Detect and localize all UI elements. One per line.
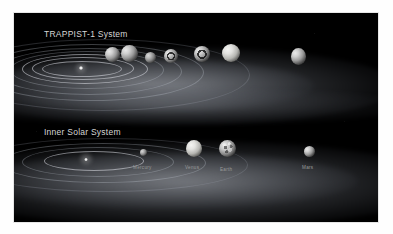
mercury-planet [140, 149, 147, 156]
earth-label: Earth [220, 167, 232, 172]
mars-label: Mars [302, 165, 313, 170]
trappist-planet-g [222, 44, 240, 62]
background-speck [56, 35, 57, 36]
trappist-planet-b [105, 47, 120, 62]
solar-system-title: Inner Solar System [44, 127, 121, 137]
background-speck [314, 33, 315, 34]
background-speck [36, 131, 37, 132]
trappist-planet-d [145, 52, 156, 63]
illustration-panel: TRAPPIST-1 System Mercury Venus [14, 13, 378, 222]
mars-planet [304, 146, 315, 157]
trappist-planet-e [164, 49, 178, 63]
system-divider-haze [14, 87, 378, 125]
page-canvas: TRAPPIST-1 System Mercury Venus [0, 0, 393, 234]
venus-label: Venus [185, 165, 199, 170]
mercury-label: Mercury [133, 165, 152, 170]
trappist-planet-c [121, 45, 138, 62]
background-speck [344, 121, 345, 122]
trappist-system-title: TRAPPIST-1 System [44, 29, 128, 39]
sun [84, 158, 88, 161]
trappist-planet-h [291, 48, 306, 65]
trappist-1-star [79, 66, 83, 70]
trappist-planet-f [194, 46, 210, 62]
earth-planet [219, 140, 236, 157]
venus-planet [186, 140, 202, 157]
